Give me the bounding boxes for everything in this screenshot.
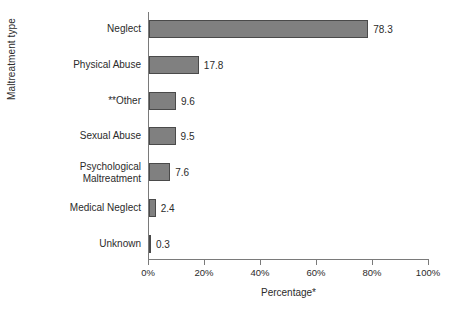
x-axis-title: Percentage* [148,287,429,298]
bar [149,235,151,253]
bar-value-label: 7.6 [175,167,189,178]
x-axis-tick-label: 0% [141,267,155,278]
plot-area: Neglect78.3Physical Abuse17.8**Other9.6S… [148,12,428,258]
bar-row: **Other9.6 [148,92,428,110]
category-label: **Other [108,95,141,107]
bar-chart: Maltreatment type Neglect78.3Physical Ab… [0,0,470,318]
x-axis-tick-label: 60% [306,267,325,278]
x-axis-tick [372,260,373,265]
bar-row: Medical Neglect2.4 [148,199,428,217]
bar-row: Sexual Abuse9.5 [148,127,428,145]
category-label: Sexual Abuse [80,131,141,143]
x-axis-tick [316,260,317,265]
bar-value-label: 17.8 [204,59,223,70]
x-axis-tick [148,260,149,265]
x-axis-tick-label: 20% [194,267,213,278]
x-axis-tick-label: 100% [416,267,440,278]
bar [149,127,176,145]
x-axis-tick [204,260,205,265]
x-axis-tick-label: 80% [362,267,381,278]
bar-row: Unknown0.3 [148,235,428,253]
bar [149,92,176,110]
bar-row: Psychological Maltreatment7.6 [148,163,428,181]
bar-value-label: 78.3 [373,24,392,35]
bar [149,56,199,74]
category-label: Neglect [107,23,141,35]
bar-value-label: 9.6 [181,95,195,106]
bar [149,163,170,181]
value-axis-line [148,259,429,260]
bar-value-label: 2.4 [161,203,175,214]
bar-row: Physical Abuse17.8 [148,56,428,74]
category-label: Psychological Maltreatment [80,161,141,184]
x-axis-tick [260,260,261,265]
x-axis-tick-label: 40% [250,267,269,278]
bar-value-label: 0.3 [156,238,170,249]
bar [149,199,156,217]
category-label: Physical Abuse [73,59,141,71]
bar-row: Neglect78.3 [148,20,428,38]
bar [149,20,368,38]
category-label: Unknown [99,238,141,250]
category-label: Medical Neglect [70,202,141,214]
bar-value-label: 9.5 [181,131,195,142]
x-axis-tick [428,260,429,265]
y-axis-title: Maltreatment type [6,0,20,124]
